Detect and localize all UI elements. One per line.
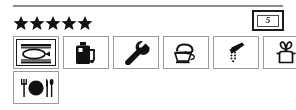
amenity-fuel[interactable] — [63, 36, 109, 69]
amenity-row-1 — [13, 36, 296, 69]
top-divider — [13, 5, 283, 7]
amenity-row-2 — [13, 71, 59, 104]
amenity-ironing-board[interactable] — [13, 36, 59, 69]
star-rating — [13, 13, 93, 33]
amenity-restaurant[interactable] — [13, 71, 59, 104]
wrench-icon — [121, 41, 151, 65]
fuel-can-icon — [72, 41, 100, 65]
category-badge-label: 5 — [266, 16, 271, 25]
amenity-repairs[interactable] — [113, 36, 159, 69]
category-badge-frame: 5 — [257, 15, 279, 27]
shower-icon — [222, 41, 250, 65]
star-icon-2 — [29, 15, 45, 31]
coffee-cup-icon — [171, 41, 201, 65]
star-icon-4 — [61, 15, 77, 31]
star-icon-1 — [13, 15, 29, 31]
amenity-cafe[interactable] — [163, 36, 209, 69]
star-icon-5 — [77, 15, 93, 31]
restaurant-icon — [18, 77, 54, 99]
hairdryer-icon — [272, 41, 296, 65]
category-badge: 5 — [252, 10, 284, 31]
amenity-hairdresser[interactable] — [263, 36, 296, 69]
amenity-shower[interactable] — [213, 36, 259, 69]
star-icon-3 — [45, 15, 61, 31]
amenities-panel: 5 — [0, 0, 296, 110]
ironing-board-icon — [19, 42, 53, 64]
